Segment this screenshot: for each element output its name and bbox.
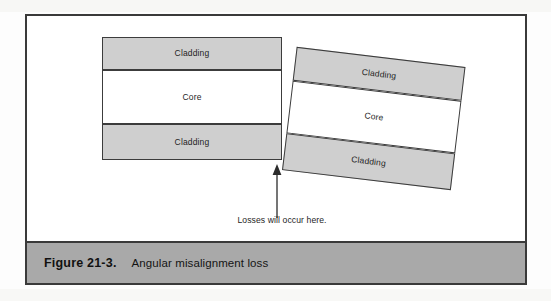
aligned-fiber-top-cladding-label: Cladding [175,49,210,58]
figure-diagram-canvas: Cladding Core Cladding Cladding Core Cla… [27,16,525,241]
aligned-fiber-core-label: Core [182,93,201,102]
figure-caption-number: Figure 21-3. [44,256,117,270]
aligned-fiber-core: Core [102,70,282,124]
misaligned-fiber-bottom-cladding-label: Cladding [351,155,387,168]
aligned-fiber-bottom-cladding-label: Cladding [175,138,210,147]
figure-caption-bar: Figure 21-3. Angular misalignment loss [27,241,525,283]
aligned-fiber-bottom-cladding: Cladding [102,124,282,160]
aligned-fiber-top-cladding: Cladding [102,37,282,70]
loss-callout-arrow-icon [270,164,284,218]
figure-caption-title: Angular misalignment loss [132,257,269,269]
aligned-fiber-block: Cladding Core Cladding [102,37,282,160]
misaligned-fiber-top-cladding-label: Cladding [361,68,397,81]
loss-annotation-label: Losses will occur here. [177,216,387,225]
misaligned-fiber-core-label: Core [364,112,384,123]
figure-frame: Cladding Core Cladding Cladding Core Cla… [25,14,527,285]
misaligned-fiber-block: Cladding Core Cladding [282,47,465,190]
